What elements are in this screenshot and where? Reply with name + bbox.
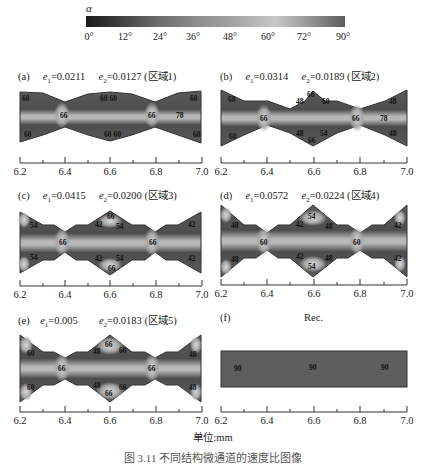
- axis-tick-label: 6.2: [214, 166, 227, 177]
- axis-tick-label: 6.8: [149, 289, 162, 300]
- axis-f: [221, 406, 407, 412]
- axis-tick-label: 6.6: [307, 415, 320, 426]
- axis-b: [221, 157, 407, 163]
- axis-tick-label: 6.4: [58, 289, 71, 300]
- axis-tick-label: 6.2: [214, 288, 227, 299]
- axis-tick-label: 6.6: [307, 166, 320, 177]
- axis-tick-label: 6.8: [149, 166, 162, 177]
- axis-tick-label: 6.8: [149, 415, 162, 426]
- axis-e: [20, 406, 202, 412]
- axis-tick-label: 6.8: [353, 166, 366, 177]
- unit-label: 单位:mm: [193, 429, 232, 444]
- axis-tick-label: 6.4: [58, 166, 71, 177]
- axis-tick-label: 6.4: [260, 288, 273, 299]
- axis-a: [20, 157, 202, 163]
- axis-tick-label: 6.2: [214, 415, 227, 426]
- axis-tick-label: 6.2: [13, 166, 26, 177]
- axis-tick-label: 7.0: [195, 415, 208, 426]
- axis-tick-label: 7.0: [400, 288, 413, 299]
- axis-tick-label: 6.4: [260, 415, 273, 426]
- axis-tick-label: 6.8: [353, 415, 366, 426]
- axis-tick-label: 7.0: [195, 289, 208, 300]
- figure-caption: 图 3.11 不同结构微通道的速度比图像: [124, 449, 302, 465]
- axis-tick-label: 6.2: [13, 289, 26, 300]
- axis-tick-label: 7.0: [400, 166, 413, 177]
- axis-tick-label: 7.0: [400, 415, 413, 426]
- axis-tick-label: 6.6: [103, 166, 116, 177]
- axis-c: [20, 280, 202, 286]
- axis-tick-label: 7.0: [195, 166, 208, 177]
- axis-tick-label: 6.6: [103, 289, 116, 300]
- axis-tick-label: 6.4: [58, 415, 71, 426]
- axis-d: [221, 279, 407, 285]
- axis-tick-label: 6.8: [353, 288, 366, 299]
- axis-tick-label: 6.4: [260, 166, 273, 177]
- axis-tick-label: 6.6: [103, 415, 116, 426]
- axis-tick-label: 6.6: [307, 288, 320, 299]
- axis-tick-label: 6.2: [13, 415, 26, 426]
